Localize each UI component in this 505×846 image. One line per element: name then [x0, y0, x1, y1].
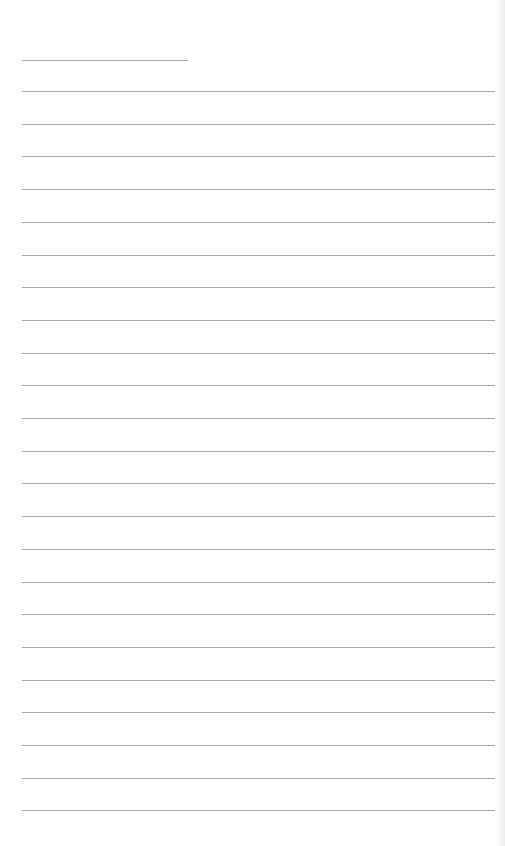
page-edge-shadow [495, 0, 505, 846]
ruled-line [22, 91, 495, 92]
ruled-line [22, 255, 495, 256]
ruled-line [22, 287, 495, 288]
ruled-line [22, 516, 495, 517]
ruled-line [22, 483, 495, 484]
ruled-line [22, 745, 495, 746]
ruled-line [22, 222, 495, 223]
ruled-line [22, 778, 495, 779]
ruled-line [22, 124, 495, 125]
ruled-line [22, 712, 495, 713]
ruled-lines-container [0, 0, 505, 846]
ruled-line [22, 582, 495, 583]
ruled-line [22, 189, 495, 190]
ruled-line [22, 810, 495, 811]
ruled-line [22, 614, 495, 615]
lined-paper-page [0, 0, 505, 846]
ruled-line [22, 647, 495, 648]
ruled-line [22, 451, 495, 452]
ruled-line [22, 353, 495, 354]
ruled-line [22, 680, 495, 681]
ruled-line [22, 156, 495, 157]
ruled-line [22, 385, 495, 386]
ruled-line [22, 320, 495, 321]
ruled-line [22, 549, 495, 550]
ruled-line [22, 418, 495, 419]
